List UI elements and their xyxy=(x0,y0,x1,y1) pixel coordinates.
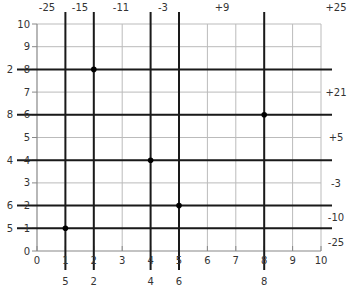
top-label: +25 xyxy=(325,2,346,13)
top-label: -3 xyxy=(158,2,168,13)
x-tick-label: 4 xyxy=(147,255,153,266)
data-point xyxy=(261,112,267,118)
x-tick-label: 9 xyxy=(289,255,295,266)
bottom-label: 5 xyxy=(62,276,68,287)
bottom-label: 8 xyxy=(261,276,267,287)
left-label: 6 xyxy=(7,200,13,211)
y-tick-label: 1 xyxy=(24,223,30,234)
left-label: 2 xyxy=(7,64,13,75)
bottom-label: 4 xyxy=(147,276,153,287)
top-label: -15 xyxy=(72,2,88,13)
labels: 0123456789100123456789105246828465-25-15… xyxy=(7,2,347,287)
x-tick-label: 0 xyxy=(34,255,40,266)
data-point xyxy=(91,67,97,73)
top-label: +9 xyxy=(215,2,230,13)
right-label: -10 xyxy=(328,212,344,223)
y-tick-label: 7 xyxy=(24,87,30,98)
bold-lines xyxy=(17,12,332,270)
x-tick-label: 10 xyxy=(315,255,328,266)
left-label: 4 xyxy=(7,155,13,166)
data-point xyxy=(63,226,69,232)
y-tick-label: 8 xyxy=(24,64,30,75)
y-tick-label: 2 xyxy=(24,200,30,211)
bottom-label: 6 xyxy=(176,276,182,287)
y-tick-label: 0 xyxy=(24,246,30,257)
y-tick-label: 9 xyxy=(24,41,30,52)
left-label: 8 xyxy=(7,109,13,120)
bottom-label: 2 xyxy=(91,276,97,287)
y-tick-label: 4 xyxy=(24,155,30,166)
top-label: -25 xyxy=(39,2,55,13)
grid-diagram: 0123456789100123456789105246828465-25-15… xyxy=(0,0,352,294)
top-label: -11 xyxy=(113,2,129,13)
x-tick-label: 1 xyxy=(62,255,68,266)
x-tick-label: 2 xyxy=(91,255,97,266)
data-point xyxy=(176,203,182,209)
x-tick-label: 7 xyxy=(233,255,239,266)
data-point xyxy=(148,157,154,163)
left-label: 5 xyxy=(7,223,13,234)
x-tick-label: 6 xyxy=(204,255,210,266)
y-tick-label: 6 xyxy=(24,109,30,120)
y-tick-label: 10 xyxy=(17,19,30,30)
x-tick-label: 5 xyxy=(176,255,182,266)
y-tick-label: 3 xyxy=(24,177,30,188)
right-label: -25 xyxy=(328,237,344,248)
right-label: +21 xyxy=(325,87,346,98)
x-tick-label: 3 xyxy=(119,255,125,266)
x-tick-label: 8 xyxy=(261,255,267,266)
y-tick-label: 5 xyxy=(24,132,30,143)
right-label: -3 xyxy=(331,178,341,189)
right-label: +5 xyxy=(329,132,344,143)
